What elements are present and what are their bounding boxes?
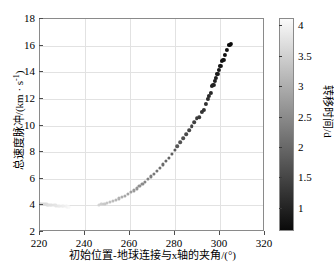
scatter-point — [225, 48, 229, 52]
x-tick-mark — [84, 231, 85, 235]
y-axis-label-exponent: -1 — [12, 74, 21, 81]
scatter-point — [187, 128, 191, 132]
gridline-horizontal — [40, 99, 263, 100]
scatter-point — [141, 182, 144, 185]
scatter-point — [167, 156, 170, 159]
colorbar-tick-label: 2.5 — [298, 111, 312, 123]
colorbar-tick-label: 4 — [298, 19, 304, 31]
scatter-point — [147, 177, 150, 180]
x-tick-label: 220 — [31, 237, 48, 249]
colorbar-tick-label: 1 — [298, 202, 304, 214]
scatter-point — [193, 120, 197, 124]
colorbar-gradient — [279, 18, 294, 231]
colorbar-label: 转移时间/d — [321, 57, 334, 167]
x-axis-label: 初始位置-地球连接与x轴的夹角/(°) — [0, 249, 305, 262]
gridline-vertical — [175, 19, 176, 230]
scatter-point — [202, 108, 206, 112]
colorbar-tick-mark — [279, 25, 282, 26]
x-tick-label: 240 — [76, 237, 93, 249]
y-tick-label: 18 — [13, 12, 35, 24]
y-tick-mark — [39, 45, 43, 46]
y-tick-mark — [39, 178, 43, 179]
colorbar-tick-mark — [279, 208, 282, 209]
gridline-vertical — [220, 19, 221, 230]
scatter-point — [211, 83, 215, 87]
scatter-point — [158, 166, 161, 169]
scatter-point — [190, 124, 194, 128]
x-tick-label: 260 — [121, 237, 138, 249]
scatter-point — [170, 152, 173, 155]
colorbar-tick-label: 3 — [298, 80, 304, 92]
colorbar: 11.522.533.54 — [279, 18, 294, 231]
x-tick-label: 320 — [256, 237, 273, 249]
scatter-point — [218, 63, 222, 67]
gridline-horizontal — [40, 179, 263, 180]
scatter-point — [152, 172, 155, 175]
x-tick-mark — [219, 231, 220, 235]
colorbar-tick-label: 2 — [298, 141, 304, 153]
gridline-vertical — [85, 19, 86, 230]
scatter-point — [184, 132, 188, 136]
colorbar-tick-mark — [279, 147, 282, 148]
y-tick-mark — [39, 98, 43, 99]
scatter-point — [209, 91, 213, 95]
x-tick-label: 300 — [211, 237, 228, 249]
scatter-point — [198, 115, 202, 119]
y-axis-label-tail: ) — [13, 71, 25, 75]
gridline-horizontal — [40, 205, 263, 206]
x-tick-label: 280 — [166, 237, 183, 249]
colorbar-tick-mark — [279, 177, 282, 178]
gridline-horizontal — [40, 152, 263, 153]
gridline-horizontal — [40, 72, 263, 73]
scatter-point — [176, 145, 180, 149]
y-tick-mark — [39, 71, 43, 72]
colorbar-tick-mark — [279, 56, 282, 57]
y-tick-mark — [39, 204, 43, 205]
scatter-point — [204, 102, 208, 106]
scatter-point — [164, 159, 167, 162]
y-tick-mark — [39, 231, 43, 232]
y-tick-mark — [39, 18, 43, 19]
y-tick-mark — [39, 125, 43, 126]
scatter-point — [144, 180, 147, 183]
colorbar-tick-label: 3.5 — [298, 50, 312, 62]
colorbar-tick-mark — [279, 86, 282, 87]
scatter-point — [223, 53, 227, 57]
colorbar-tick-label: 1.5 — [298, 171, 312, 183]
x-tick-mark — [264, 231, 265, 235]
plot-area — [39, 18, 264, 231]
scatter-point — [182, 136, 186, 140]
x-tick-mark — [174, 231, 175, 235]
scatter-point — [161, 163, 164, 166]
scatter-point — [155, 169, 158, 172]
gridline-horizontal — [40, 126, 263, 127]
scatter-point — [150, 175, 153, 178]
y-axis-label-main: 总速度脉冲/(km · s — [13, 81, 25, 170]
y-tick-mark — [39, 151, 43, 152]
y-tick-label: 2 — [13, 225, 35, 237]
colorbar-tick-mark — [279, 117, 282, 118]
y-axis-label: 总速度脉冲/(km · s-1) — [10, 40, 27, 200]
scatter-point — [68, 205, 71, 208]
gridline-vertical — [130, 19, 131, 230]
scatter-point — [221, 58, 225, 62]
x-tick-mark — [129, 231, 130, 235]
scatter-point — [179, 141, 183, 145]
